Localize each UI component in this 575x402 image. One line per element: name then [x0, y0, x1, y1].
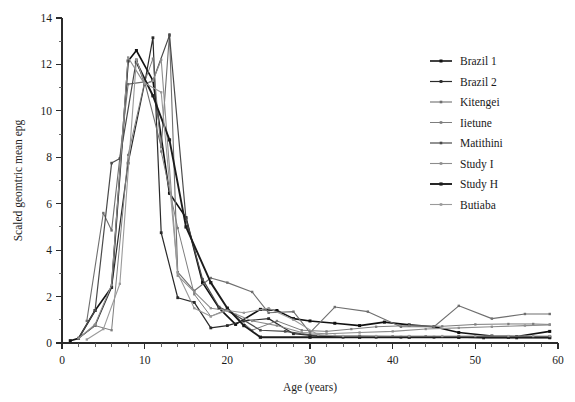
data-point — [226, 307, 229, 310]
data-point — [383, 321, 386, 324]
y-tick-label: 14 — [41, 12, 53, 24]
legend-swatch-marker — [440, 121, 443, 124]
legend-item-brazil-2[interactable]: Brazil 2 — [430, 76, 497, 88]
data-point — [532, 335, 534, 337]
data-point — [86, 338, 88, 340]
data-point — [441, 335, 443, 337]
data-point — [458, 305, 460, 307]
x-tick-label: 50 — [470, 354, 482, 366]
legend-swatch-marker — [440, 162, 443, 165]
data-point — [367, 310, 369, 312]
data-point — [342, 335, 344, 337]
data-point — [524, 324, 526, 326]
x-tick-label: 0 — [59, 354, 65, 366]
chart-legend: Brazil 1Brazil 2KitengeiIietuneMatithini… — [430, 55, 503, 211]
legend-item-kitengei[interactable]: Kitengei — [430, 96, 500, 109]
data-point — [549, 324, 551, 326]
data-point — [267, 317, 270, 320]
data-point — [218, 306, 221, 309]
legend-label: Brazil 2 — [460, 76, 497, 88]
x-tick-label: 20 — [222, 354, 234, 366]
x-tick-label: 10 — [139, 354, 151, 366]
data-point — [333, 322, 336, 325]
legend-swatch-marker — [439, 182, 442, 185]
y-tick-label: 10 — [41, 105, 53, 117]
data-point — [392, 330, 394, 332]
x-tick-label: 60 — [552, 354, 564, 366]
data-point — [210, 307, 212, 309]
legend-item-iietune[interactable]: Iietune — [430, 117, 492, 129]
data-point — [77, 337, 79, 339]
data-point — [457, 331, 460, 334]
line-chart: 010203040506002468101214Age (years)Scale… — [0, 0, 575, 402]
legend-item-study-i[interactable]: Study I — [430, 158, 494, 171]
data-point — [184, 225, 187, 228]
legend-item-study-h[interactable]: Study H — [430, 178, 498, 191]
data-point — [350, 328, 352, 330]
data-point — [119, 283, 121, 285]
data-point — [168, 138, 171, 141]
data-point — [507, 323, 509, 325]
data-point — [201, 278, 204, 281]
data-point — [259, 329, 262, 332]
data-point — [110, 284, 112, 286]
data-point — [160, 231, 163, 234]
data-point — [135, 49, 138, 52]
data-point — [375, 335, 377, 337]
data-point — [127, 56, 129, 58]
data-point — [102, 212, 104, 214]
data-point — [325, 333, 327, 335]
legend-label: Butiaba — [460, 199, 496, 211]
data-point — [160, 59, 162, 61]
data-point — [94, 323, 96, 325]
data-point — [408, 324, 410, 326]
data-point — [69, 339, 72, 342]
data-point — [226, 281, 228, 283]
data-point — [135, 59, 137, 61]
y-axis-title: Scaled geomtric mean epg — [12, 119, 25, 241]
legend-swatch-marker — [440, 60, 443, 63]
data-point — [524, 313, 526, 315]
data-point — [474, 335, 476, 337]
y-tick-label: 2 — [46, 291, 52, 303]
data-point — [548, 330, 551, 333]
data-point — [358, 331, 360, 333]
data-point — [160, 150, 162, 152]
data-point — [292, 310, 294, 312]
data-point — [284, 330, 287, 333]
data-point — [226, 309, 228, 311]
legend-swatch-marker — [440, 142, 443, 145]
legend-item-brazil-1[interactable]: Brazil 1 — [430, 55, 497, 67]
legend-item-matithini[interactable]: Matithini — [430, 137, 503, 149]
data-point — [193, 291, 195, 293]
data-point — [317, 334, 319, 336]
data-point — [251, 320, 253, 322]
series-brazil-1 — [69, 49, 551, 342]
data-point — [441, 325, 443, 327]
x-axis-title: Age (years) — [283, 381, 337, 394]
data-point — [549, 335, 551, 337]
data-point — [242, 324, 245, 327]
data-point — [474, 323, 476, 325]
data-point — [267, 312, 269, 314]
data-point — [325, 330, 327, 332]
legend-swatch-marker — [440, 203, 443, 206]
data-point — [210, 315, 212, 317]
y-tick-label: 4 — [46, 244, 52, 256]
data-point — [144, 82, 146, 84]
data-point — [102, 328, 104, 330]
data-point — [152, 36, 155, 39]
data-point — [425, 328, 427, 330]
y-tick-label: 12 — [41, 58, 53, 70]
data-point — [110, 229, 112, 231]
data-point — [532, 323, 534, 325]
data-point — [276, 320, 278, 322]
legend-item-butiaba[interactable]: Butiaba — [430, 199, 496, 211]
data-point — [177, 272, 179, 274]
data-point — [276, 324, 278, 326]
data-point — [86, 320, 88, 322]
data-point — [259, 336, 262, 339]
y-tick-label: 0 — [46, 337, 52, 349]
data-point — [193, 307, 195, 309]
data-point — [177, 227, 179, 229]
